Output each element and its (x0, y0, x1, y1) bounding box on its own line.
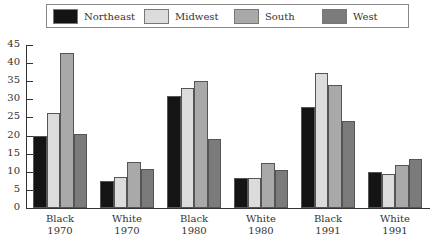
y-tick (26, 154, 33, 155)
y-tick-label: 30 (0, 92, 20, 103)
y-tick (26, 45, 33, 46)
x-label-line: White (97, 213, 157, 225)
x-label-line: Black (30, 213, 90, 225)
x-label-line: White (365, 213, 425, 225)
y-tick (26, 172, 33, 173)
y-tick-label: 5 (0, 183, 20, 194)
x-label-line: Black (164, 213, 224, 225)
bar-midwest (47, 113, 61, 208)
x-label-line: 1980 (231, 225, 291, 237)
y-tick (26, 190, 33, 191)
x-tick-label: White1980 (231, 213, 291, 237)
bar-midwest (248, 178, 262, 208)
bar-west (208, 139, 222, 208)
bar-west (342, 121, 356, 208)
y-tick (26, 208, 33, 209)
bar-midwest (382, 174, 396, 208)
y-tick-label: 40 (0, 56, 20, 67)
y-tick (26, 81, 33, 82)
y-tick-label: 35 (0, 74, 20, 85)
bar-northeast (100, 181, 114, 208)
x-label-line: 1970 (30, 225, 90, 237)
x-tick-label: White1991 (365, 213, 425, 237)
y-tick-label: 10 (0, 165, 20, 176)
bar-northeast (301, 107, 315, 208)
y-tick-label: 25 (0, 110, 20, 121)
y-axis (26, 45, 27, 208)
y-tick (26, 117, 33, 118)
y-tick (26, 99, 33, 100)
bar-northeast (234, 178, 248, 208)
x-tick-label: White1970 (97, 213, 157, 237)
bar-midwest (114, 177, 128, 208)
bar-midwest (181, 88, 195, 208)
bar-west (409, 159, 423, 208)
bar-south (328, 85, 342, 208)
y-tick-label: 45 (0, 38, 20, 49)
bar-northeast (33, 136, 47, 208)
bar-west (275, 170, 289, 208)
x-label-line: 1991 (298, 225, 358, 237)
bar-south (395, 165, 409, 208)
bar-northeast (167, 96, 181, 208)
bar-south (60, 53, 74, 208)
bar-south (194, 81, 208, 208)
x-label-line: Black (298, 213, 358, 225)
y-tick (26, 136, 33, 137)
bar-south (261, 163, 275, 208)
x-axis (26, 208, 430, 209)
bar-midwest (315, 73, 329, 208)
x-label-line: 1980 (164, 225, 224, 237)
x-label-line: 1970 (97, 225, 157, 237)
bar-south (127, 162, 141, 208)
plot-area: 051015202530354045Black1970White1970Blac… (0, 0, 435, 245)
x-tick-label: Black1980 (164, 213, 224, 237)
y-tick-label: 15 (0, 147, 20, 158)
x-label-line: White (231, 213, 291, 225)
y-tick (26, 63, 33, 64)
y-tick-label: 0 (0, 201, 20, 212)
y-tick-label: 20 (0, 129, 20, 140)
x-tick-label: Black1970 (30, 213, 90, 237)
x-label-line: 1991 (365, 225, 425, 237)
bar-west (141, 169, 155, 208)
x-tick-label: Black1991 (298, 213, 358, 237)
bar-west (74, 134, 88, 208)
bar-northeast (368, 172, 382, 208)
